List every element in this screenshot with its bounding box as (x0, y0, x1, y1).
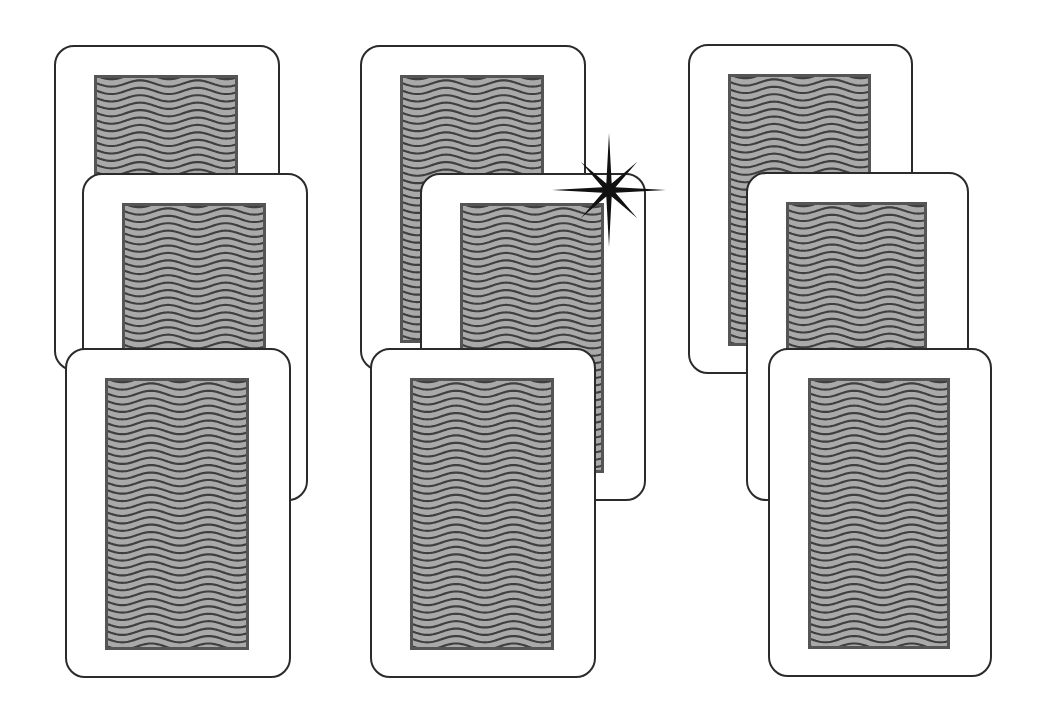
card-middle-front[interactable] (370, 348, 596, 678)
wavy-back-pattern-icon (108, 381, 246, 647)
card-table (0, 0, 1042, 724)
card-back-panel (808, 378, 950, 649)
wavy-back-pattern-icon (811, 381, 947, 646)
card-back-panel (410, 378, 554, 650)
card-back-panel (105, 378, 249, 650)
card-right-front[interactable] (768, 348, 992, 677)
wavy-back-pattern-icon (413, 381, 551, 647)
card-left-front[interactable] (65, 348, 291, 678)
